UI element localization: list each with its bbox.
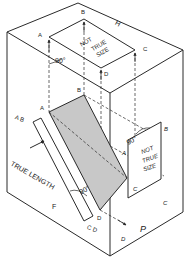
label-side-c2: C: [163, 200, 168, 206]
front-view-surface: [49, 95, 127, 210]
label-side-c1: C: [133, 186, 138, 192]
label-front-ab: A B: [14, 114, 25, 123]
label-side-a: A: [121, 150, 126, 156]
label-side-b: B: [164, 126, 168, 132]
label-front-f: F: [52, 203, 56, 210]
top-labels: A B C D H NOT TRUE SIZE 90°: [38, 9, 148, 77]
label-top-c: C: [143, 46, 148, 52]
label-front-cd: C D: [86, 224, 98, 233]
label-top-d: D: [104, 71, 109, 77]
label-top-h: H: [114, 19, 122, 28]
label-side-p: P: [140, 224, 146, 234]
label-top-a: A: [38, 32, 42, 38]
label-front-d: D: [97, 215, 102, 221]
orthographic-projection-diagram: A B C D H NOT TRUE SIZE 90° A B A B D C …: [0, 0, 184, 257]
label-front-b: B: [77, 87, 81, 93]
label-side-d: D: [121, 236, 126, 242]
label-top-b: B: [81, 9, 85, 15]
label-true-length: TRUE LENGTH: [10, 160, 56, 191]
label-front-a: A: [40, 105, 44, 111]
label-top-angle: 90°: [55, 57, 66, 64]
